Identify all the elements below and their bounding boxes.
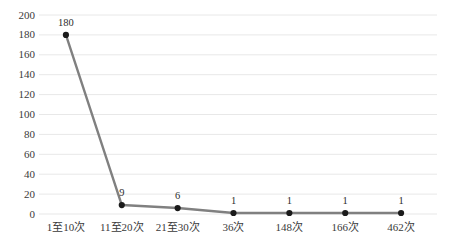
x-axis-tick-label: 166次	[317, 222, 373, 233]
data-point-marker	[119, 202, 125, 208]
data-point-label: 180	[51, 18, 81, 29]
chart-plot-area	[0, 0, 451, 250]
data-point-label: 9	[107, 188, 137, 199]
data-point-label: 1	[274, 196, 304, 207]
y-axis-tick-label: 100	[0, 109, 35, 120]
x-axis-tick-label: 148次	[261, 222, 317, 233]
x-axis-tick-label: 36次	[206, 222, 262, 233]
line-chart: 020406080100120140160180200 1至10次11至20次2…	[0, 0, 451, 250]
y-axis-tick-label: 180	[0, 29, 35, 40]
data-point-marker	[286, 210, 292, 216]
data-point-marker	[398, 210, 404, 216]
y-axis-tick-label: 120	[0, 89, 35, 100]
data-point-marker	[342, 210, 348, 216]
x-axis-tick-label: 21至30次	[150, 222, 206, 233]
y-axis-tick-label: 20	[0, 189, 35, 200]
data-point-label: 1	[386, 196, 416, 207]
data-point-label: 6	[163, 191, 193, 202]
y-axis-tick-label: 200	[0, 10, 35, 21]
gridlines	[39, 15, 437, 214]
x-axis-tick-label: 462次	[373, 222, 429, 233]
y-axis-tick-label: 160	[0, 49, 35, 60]
data-point-label: 1	[219, 196, 249, 207]
data-point-marker	[63, 32, 69, 38]
y-axis-tick-label: 140	[0, 69, 35, 80]
x-axis-tick-label: 1至10次	[38, 222, 94, 233]
y-axis-tick-label: 0	[0, 209, 35, 220]
y-axis-tick-label: 40	[0, 169, 35, 180]
data-point-marker	[175, 205, 181, 211]
data-point-marker	[230, 210, 236, 216]
x-axis-tick-label: 11至20次	[94, 222, 150, 233]
y-axis-tick-label: 80	[0, 129, 35, 140]
y-axis-tick-label: 60	[0, 149, 35, 160]
data-point-label: 1	[330, 196, 360, 207]
series-line	[66, 35, 401, 213]
